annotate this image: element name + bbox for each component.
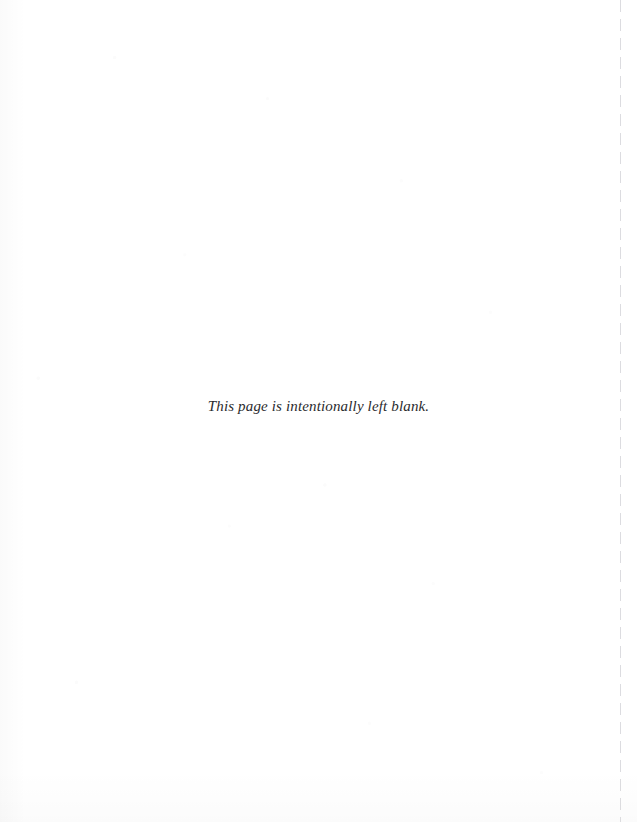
scanned-page: This page is intentionally left blank. bbox=[0, 0, 637, 822]
intentionally-left-blank-notice: This page is intentionally left blank. bbox=[0, 397, 637, 415]
